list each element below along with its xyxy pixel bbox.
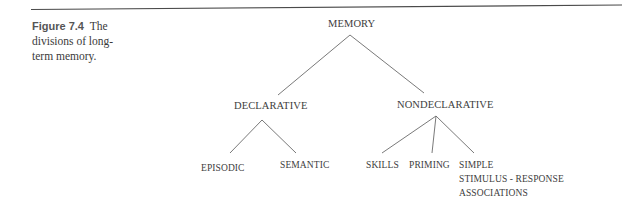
node-simple-sr-associations: SIMPLE STIMULUS - RESPONSE ASSOCIATIONS [459,158,564,200]
node-simple-line-2: STIMULUS - RESPONSE [459,172,564,186]
edge-nondeclarative-simple [436,116,474,153]
node-skills: SKILLS [366,158,399,172]
edge-nondeclarative-skills [382,116,436,153]
node-semantic: SEMANTIC [280,158,329,172]
node-nondeclarative: NONDECLARATIVE [397,98,493,112]
node-declarative: DECLARATIVE [234,99,307,113]
node-simple-line-1: SIMPLE [459,158,564,172]
node-memory: MEMORY [328,17,375,31]
node-episodic: EPISODIC [201,161,245,175]
edge-nondeclarative-priming [432,116,436,153]
edge-memory-declarative [278,35,350,95]
edge-declarative-episodic [230,120,262,153]
edge-memory-nondeclarative [350,35,424,93]
node-priming: PRIMING [409,158,450,172]
node-simple-line-3: ASSOCIATIONS [459,186,564,200]
edge-declarative-semantic [262,120,296,153]
